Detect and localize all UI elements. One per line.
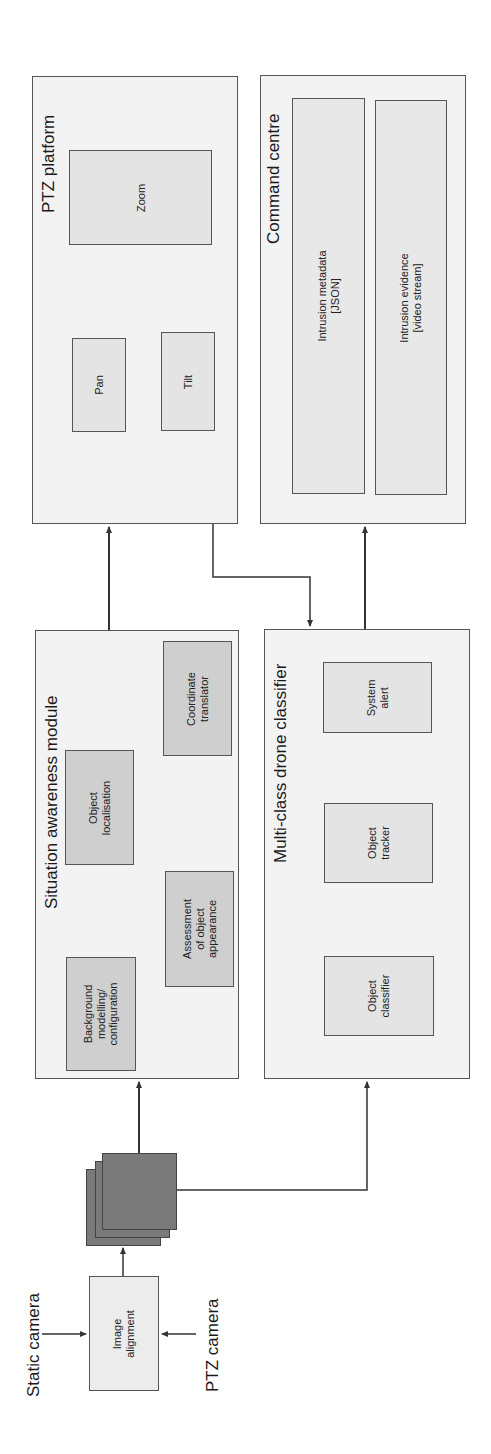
system-alert-block: System alert <box>323 662 432 733</box>
ptz-platform-module: PTZ platform <box>32 76 238 524</box>
object-localisation-label: Object localisation <box>87 780 112 834</box>
object-localisation-block: Object localisation <box>65 750 134 865</box>
ptz-camera-label: PTZ camera <box>203 1298 223 1392</box>
image-alignment-label: Image alignment <box>111 1310 136 1358</box>
intrusion-evidence-label: Intrusion evidence [video stream] <box>398 253 423 342</box>
system-alert-label: System alert <box>365 679 390 716</box>
situation-awareness-title: Situation awareness module <box>42 695 62 909</box>
intrusion-evidence-block: Intrusion evidence [video stream] <box>375 100 447 495</box>
zoom-label: Zoom <box>134 183 147 211</box>
assessment-label: Assessment of object appearance <box>181 899 219 959</box>
object-classifier-label: Object classifier <box>366 975 391 1018</box>
zoom-block: Zoom <box>69 150 212 245</box>
pan-label: Pan <box>93 375 106 395</box>
multi-class-title: Multi-class drone classifier <box>271 664 291 863</box>
background-modelling-label: Background modelling/ configuration <box>82 983 120 1046</box>
coordinate-translator-block: Coordinate translator <box>163 641 232 756</box>
command-centre-title: Command centre <box>264 114 284 244</box>
background-modelling-block: Background modelling/ configuration <box>66 957 136 1071</box>
pan-block: Pan <box>72 338 126 432</box>
image-alignment-block: Image alignment <box>89 1276 159 1391</box>
intrusion-metadata-label: Intrusion metadata [JSON] <box>316 250 341 341</box>
tilt-label: Tilt <box>182 374 195 388</box>
object-tracker-label: Object tracker <box>366 826 391 860</box>
object-classifier-block: Object classifier <box>324 956 434 1036</box>
object-tracker-block: Object tracker <box>324 803 433 883</box>
coordinate-translator-label: Coordinate translator <box>185 672 210 726</box>
intrusion-metadata-block: Intrusion metadata [JSON] <box>292 98 365 494</box>
assessment-block: Assessment of object appearance <box>165 871 234 987</box>
ptz-platform-title: PTZ platform <box>39 115 59 213</box>
tilt-block: Tilt <box>161 332 215 431</box>
static-camera-label: Static camera <box>24 1293 44 1397</box>
